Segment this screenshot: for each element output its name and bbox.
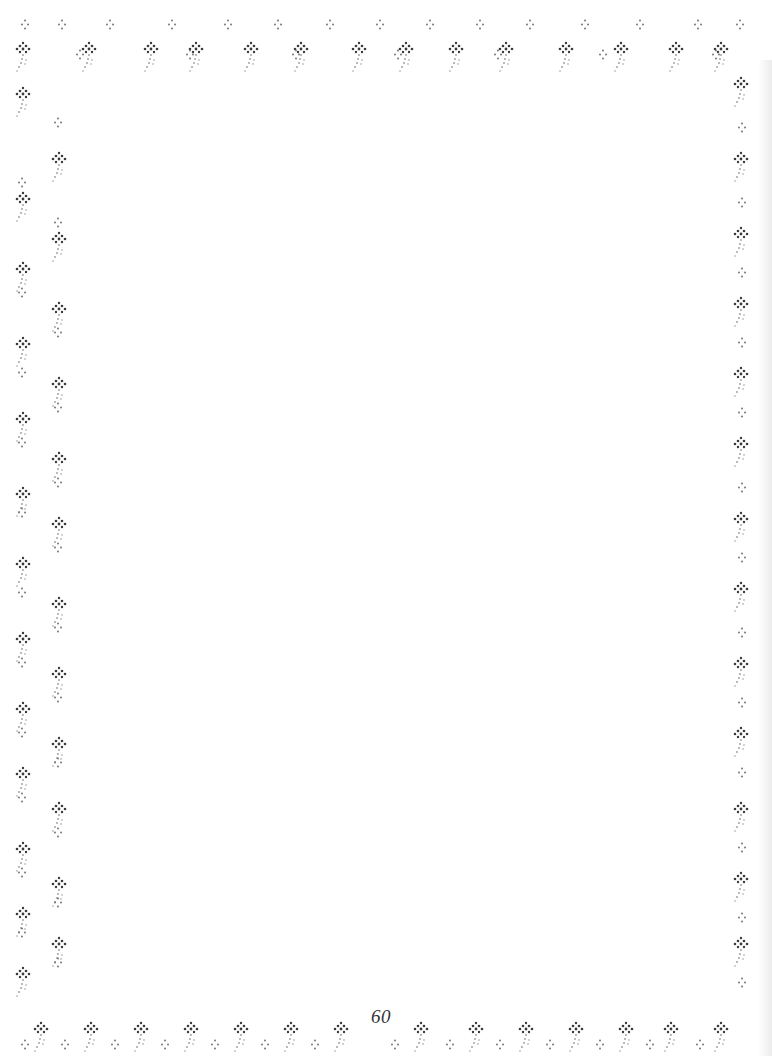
four-dot-cluster-icon: [737, 839, 747, 858]
four-dot-cluster-icon: [325, 16, 335, 35]
four-dot-cluster-icon: [595, 1036, 605, 1055]
four-dot-cluster-icon: [53, 894, 63, 913]
four-dot-cluster-icon: [185, 46, 195, 65]
four-dot-cluster-icon: [105, 16, 115, 35]
four-dot-cluster-icon: [17, 924, 27, 943]
page-edge-shadow: [758, 60, 772, 1056]
four-dot-cluster-icon: [53, 954, 63, 973]
four-dot-cluster-icon: [53, 539, 63, 558]
cross-stitch-flower-icon: [615, 1020, 637, 1056]
cross-stitch-flower-icon: [730, 580, 752, 618]
cross-stitch-flower-icon: [730, 75, 752, 113]
four-dot-cluster-icon: [737, 194, 747, 213]
four-dot-cluster-icon: [737, 764, 747, 783]
four-dot-cluster-icon: [53, 689, 63, 708]
cross-stitch-flower-icon: [230, 1020, 252, 1056]
four-dot-cluster-icon: [291, 46, 301, 65]
cross-stitch-flower-icon: [730, 150, 752, 188]
four-dot-cluster-icon: [223, 16, 233, 35]
cross-stitch-flower-icon: [565, 1020, 587, 1056]
four-dot-cluster-icon: [390, 1036, 400, 1055]
cross-stitch-flower-icon: [280, 1020, 302, 1056]
cross-stitch-flower-icon: [410, 1020, 432, 1056]
cross-stitch-flower-icon: [730, 365, 752, 403]
cross-stitch-flower-icon: [30, 1020, 52, 1056]
cross-stitch-flower-icon: [515, 1020, 537, 1056]
four-dot-cluster-icon: [53, 399, 63, 418]
cross-stitch-flower-icon: [665, 40, 687, 78]
four-dot-cluster-icon: [737, 404, 747, 423]
four-dot-cluster-icon: [53, 824, 63, 843]
cross-stitch-flower-icon: [48, 150, 70, 188]
cross-stitch-flower-icon: [710, 1020, 732, 1056]
four-dot-cluster-icon: [53, 619, 63, 638]
four-dot-cluster-icon: [160, 1036, 170, 1055]
four-dot-cluster-icon: [17, 284, 27, 303]
four-dot-cluster-icon: [53, 214, 63, 233]
cross-stitch-flower-icon: [12, 85, 34, 123]
four-dot-cluster-icon: [167, 16, 177, 35]
four-dot-cluster-icon: [310, 1036, 320, 1055]
cross-stitch-flower-icon: [330, 1020, 352, 1056]
document-page: 60: [0, 0, 772, 1056]
cross-stitch-flower-icon: [730, 435, 752, 473]
four-dot-cluster-icon: [60, 1036, 70, 1055]
four-dot-cluster-icon: [17, 789, 27, 808]
cross-stitch-flower-icon: [240, 40, 262, 78]
four-dot-cluster-icon: [20, 16, 30, 35]
four-dot-cluster-icon: [17, 654, 27, 673]
four-dot-cluster-icon: [737, 549, 747, 568]
four-dot-cluster-icon: [735, 16, 745, 35]
cross-stitch-flower-icon: [130, 1020, 152, 1056]
four-dot-cluster-icon: [475, 16, 485, 35]
four-dot-cluster-icon: [75, 46, 85, 65]
four-dot-cluster-icon: [53, 754, 63, 773]
cross-stitch-flower-icon: [660, 1020, 682, 1056]
four-dot-cluster-icon: [53, 114, 63, 133]
cross-stitch-flower-icon: [730, 870, 752, 908]
cross-stitch-flower-icon: [12, 965, 34, 1003]
four-dot-cluster-icon: [645, 1036, 655, 1055]
four-dot-cluster-icon: [737, 624, 747, 643]
cross-stitch-flower-icon: [610, 40, 632, 78]
four-dot-cluster-icon: [17, 584, 27, 603]
cross-stitch-flower-icon: [730, 655, 752, 693]
four-dot-cluster-icon: [260, 1036, 270, 1055]
four-dot-cluster-icon: [393, 46, 403, 65]
cross-stitch-flower-icon: [730, 225, 752, 263]
cross-stitch-flower-icon: [48, 230, 70, 268]
four-dot-cluster-icon: [737, 264, 747, 283]
four-dot-cluster-icon: [545, 1036, 555, 1055]
four-dot-cluster-icon: [525, 16, 535, 35]
cross-stitch-flower-icon: [12, 190, 34, 228]
four-dot-cluster-icon: [20, 1036, 30, 1055]
four-dot-cluster-icon: [598, 46, 608, 65]
four-dot-cluster-icon: [737, 909, 747, 928]
page-number: 60: [371, 1006, 391, 1028]
cross-stitch-flower-icon: [730, 725, 752, 763]
four-dot-cluster-icon: [17, 864, 27, 883]
cross-stitch-flower-icon: [730, 935, 752, 973]
four-dot-cluster-icon: [375, 16, 385, 35]
four-dot-cluster-icon: [53, 324, 63, 343]
cross-stitch-flower-icon: [730, 800, 752, 838]
four-dot-cluster-icon: [635, 16, 645, 35]
four-dot-cluster-icon: [57, 16, 67, 35]
cross-stitch-flower-icon: [12, 40, 34, 78]
cross-stitch-flower-icon: [445, 40, 467, 78]
four-dot-cluster-icon: [493, 46, 503, 65]
four-dot-cluster-icon: [737, 479, 747, 498]
four-dot-cluster-icon: [273, 16, 283, 35]
cross-stitch-flower-icon: [555, 40, 577, 78]
four-dot-cluster-icon: [445, 1036, 455, 1055]
four-dot-cluster-icon: [737, 974, 747, 993]
four-dot-cluster-icon: [17, 434, 27, 453]
cross-stitch-flower-icon: [348, 40, 370, 78]
four-dot-cluster-icon: [17, 364, 27, 383]
four-dot-cluster-icon: [711, 46, 721, 65]
cross-stitch-flower-icon: [730, 510, 752, 548]
four-dot-cluster-icon: [495, 1036, 505, 1055]
four-dot-cluster-icon: [737, 334, 747, 353]
four-dot-cluster-icon: [17, 504, 27, 523]
four-dot-cluster-icon: [17, 174, 27, 193]
